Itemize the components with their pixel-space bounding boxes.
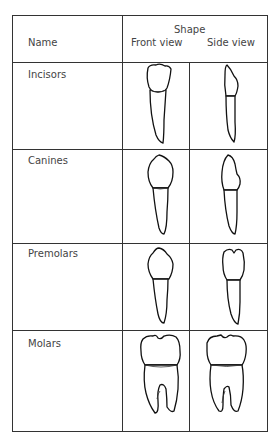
molar-side-icon: [197, 331, 255, 431]
row-name-molars: Molars: [28, 338, 61, 349]
row-name-premolars: Premolars: [28, 248, 78, 259]
incisor-side-icon: [210, 60, 250, 150]
header-side-view: Side view: [207, 37, 255, 48]
view-column-divider: [189, 62, 190, 432]
name-column-divider: [122, 15, 123, 432]
premolar-side-icon: [210, 244, 254, 330]
row-name-canines: Canines: [28, 155, 68, 166]
header-front-view: Front view: [131, 37, 183, 48]
incisor-front-icon: [140, 60, 180, 150]
canine-side-icon: [208, 150, 252, 242]
canine-front-icon: [138, 150, 182, 242]
row-name-incisors: Incisors: [28, 69, 66, 80]
header-name: Name: [28, 37, 58, 48]
molar-front-icon: [131, 331, 187, 431]
header-shape: Shape: [174, 24, 205, 35]
premolar-front-icon: [138, 244, 182, 330]
